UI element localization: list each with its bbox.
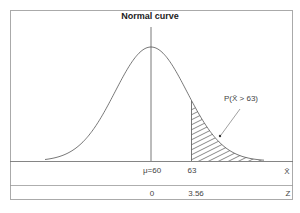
annotation-arrow — [221, 109, 240, 135]
z-tick-0: 0 — [150, 189, 155, 198]
z-axis-symbol: Z — [286, 189, 291, 198]
diagram-title: Normal curve — [121, 11, 179, 21]
xbar-tick-mean: μ=60 — [143, 166, 162, 175]
shaded-tail-region — [111, 105, 300, 165]
xbar-axis-symbol: X̄ — [284, 167, 290, 176]
normal-curve-diagram: Normal curve μ=60 63 X̄ 0 3.56 Z P(X̄ > … — [0, 0, 300, 213]
normal-curve — [45, 47, 264, 160]
probability-annotation: P(X̄ > 63) — [224, 94, 258, 103]
xbar-tick-63: 63 — [188, 166, 197, 175]
z-tick-3-56: 3.56 — [188, 189, 204, 198]
arrow-head-icon — [219, 135, 221, 137]
